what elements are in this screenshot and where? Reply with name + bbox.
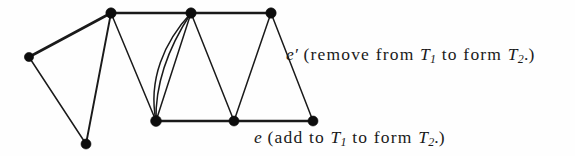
vertex-top-3 [266, 8, 276, 18]
caption-add-text-after: .) [434, 127, 444, 147]
edge-left-to-top1 [29, 13, 111, 57]
edge-top2-to-bottom1-c [156, 13, 191, 121]
vertex-bottom-left [81, 139, 91, 149]
vertex-bottom-3 [308, 116, 318, 126]
caption-add-text-middle: to form [347, 127, 419, 147]
caption-remove-edge-label: e [286, 44, 294, 64]
vertex-bottom-1 [151, 116, 162, 127]
caption-add-edge-label: e [254, 127, 262, 147]
caption-remove-tree1: T [420, 44, 430, 64]
caption-remove-tree2: T [508, 44, 518, 64]
edge-top1-to-bottom1 [111, 13, 156, 121]
vertex-top-2 [186, 8, 196, 18]
caption-add-edge: e (add to T1 to form T2.) [254, 127, 445, 150]
caption-add-text-before: (add to [262, 127, 331, 147]
edge-top1-to-bottomleft [86, 13, 111, 144]
edge-top3-to-bottom2 [234, 13, 271, 121]
edge-left-to-bottomleft [29, 57, 86, 144]
caption-remove-text-after: .) [524, 44, 534, 64]
graph-figure: e′ (remove from T1 to form T2.) e (add t… [0, 0, 575, 156]
vertex-top-1 [106, 8, 116, 18]
edge-top2-to-bottom2 [191, 13, 234, 121]
caption-remove-text-middle: to form [436, 44, 508, 64]
vertex-bottom-2 [229, 116, 239, 126]
caption-remove-edge: e′ (remove from T1 to form T2.) [286, 44, 534, 67]
edge-layer [29, 13, 313, 144]
caption-add-tree2: T [418, 127, 428, 147]
caption-remove-text-before: (remove from [298, 44, 420, 64]
caption-add-tree1: T [331, 127, 341, 147]
vertex-left [24, 52, 33, 61]
